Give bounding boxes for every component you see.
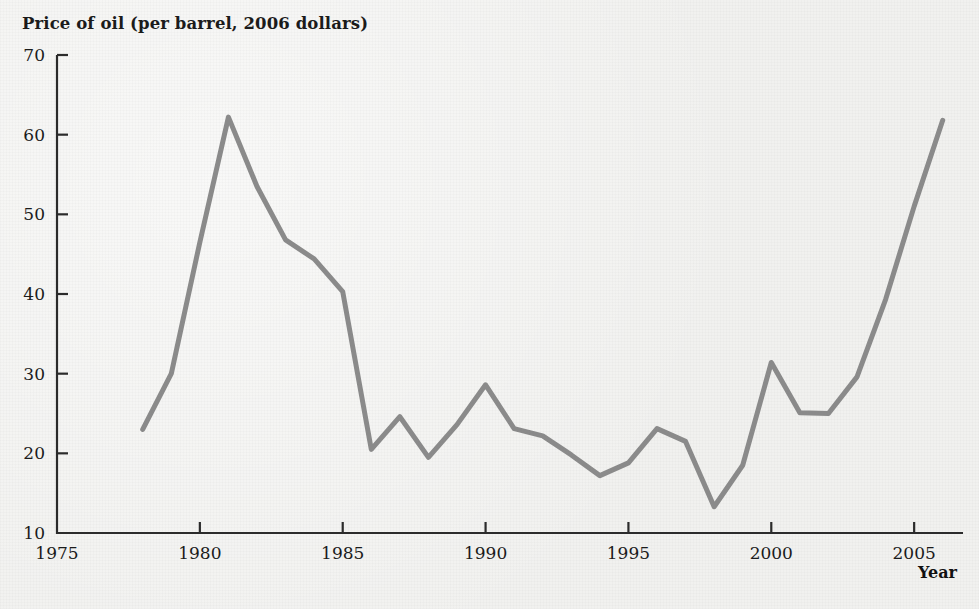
x-tick-label: 1980 [178,543,221,563]
x-tick-label: 1975 [35,543,78,563]
y-tick-label: 40 [23,284,45,304]
x-axis-tick-labels: 1975198019851990199520002005 [35,543,935,563]
x-tick-label: 2000 [750,543,793,563]
oil-price-series-line [143,117,943,507]
y-tick-label: 20 [23,443,45,463]
x-tick-label: 1985 [321,543,364,563]
y-tick-label: 10 [23,523,45,543]
axis-lines [57,55,963,533]
x-tick-label: 2005 [893,543,936,563]
x-axis-label: Year [917,563,958,582]
y-tick-label: 50 [23,204,45,224]
axis-tick-marks [57,55,914,533]
x-tick-label: 1995 [607,543,650,563]
x-tick-label: 1990 [464,543,507,563]
y-tick-label: 30 [23,364,45,384]
y-tick-label: 70 [23,45,45,65]
y-tick-label: 60 [23,125,45,145]
oil-price-line-chart: 10203040506070 1975198019851990199520002… [0,0,979,609]
y-axis-tick-labels: 10203040506070 [23,45,45,543]
